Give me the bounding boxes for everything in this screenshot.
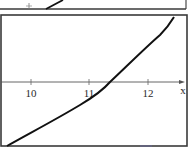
axis-label-x: x [180, 84, 186, 96]
chart-canvas: 10 11 12 x [0, 0, 189, 149]
top-panel-curve [46, 0, 63, 9]
top-panel [0, 0, 186, 9]
tick-label-10: 10 [26, 87, 38, 99]
bottom-panel: 10 11 12 x [1, 15, 187, 146]
tick-label-12: 12 [143, 87, 154, 99]
